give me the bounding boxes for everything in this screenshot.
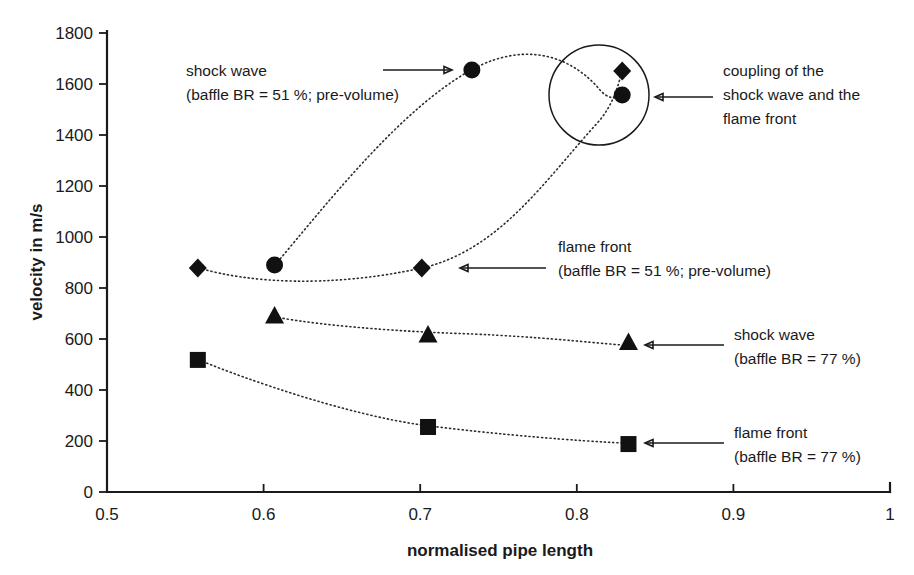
data-point-diamond [613, 61, 631, 80]
x-axis-ticks: 0.50.60.70.80.91 [95, 484, 895, 524]
x-tick-label: 0.8 [565, 505, 589, 524]
y-tick-label: 1600 [55, 75, 93, 94]
velocity-vs-pipe-length-chart: 020040060080010001200140016001800 0.50.6… [0, 0, 914, 575]
data-point-diamond [413, 259, 431, 278]
annotation-shock-wave-77-line1: shock wave [734, 326, 815, 343]
x-axis-title: normalised pipe length [407, 541, 593, 560]
annotation-shock-wave-51-line1: shock wave [186, 62, 267, 79]
x-tick-label: 0.5 [95, 505, 119, 524]
y-tick-label: 400 [65, 381, 93, 400]
data-point-square [190, 352, 206, 368]
data-point-circle [266, 257, 283, 274]
y-tick-label: 0 [84, 483, 93, 502]
y-tick-label: 1200 [55, 177, 93, 196]
annotation-flame-front-77: flame front (baffle BR = 77 %) [734, 424, 861, 465]
chart-container: 020040060080010001200140016001800 0.50.6… [0, 0, 914, 575]
annotation-flame-front-51-line1: flame front [558, 238, 632, 255]
x-tick-label: 0.9 [722, 505, 746, 524]
annotation-coupling-line2: shock wave and the [723, 86, 860, 103]
data-point-square [620, 436, 636, 452]
data-point-circle [614, 86, 631, 103]
annotation-shock-wave-77: shock wave (baffle BR = 77 %) [734, 326, 861, 367]
annotation-flame-front-77-line1: flame front [734, 424, 808, 441]
annotation-coupling: coupling of the shock wave and the flame… [723, 62, 860, 127]
annotation-coupling-line1: coupling of the [723, 62, 824, 79]
callout-arrows-group [383, 67, 724, 447]
data-point-square [420, 419, 436, 435]
coupling-highlight-circle [549, 45, 649, 145]
data-point-triangle [265, 306, 284, 324]
data-point-triangle [619, 333, 638, 351]
annotation-flame-front-77-line2: (baffle BR = 77 %) [734, 448, 861, 465]
y-axis-ticks: 020040060080010001200140016001800 [55, 24, 107, 502]
x-tick-label: 0.6 [252, 505, 276, 524]
y-tick-label: 1800 [55, 24, 93, 43]
data-point-circle [463, 61, 480, 78]
annotation-flame-front-51: flame front (baffle BR = 51 %; pre-volum… [558, 238, 771, 279]
annotation-shock-wave-51: shock wave (baffle BR = 51 %; pre-volume… [186, 62, 399, 103]
data-point-triangle [419, 325, 438, 343]
data-markers-group [189, 61, 638, 452]
x-tick-label: 0.7 [408, 505, 432, 524]
data-point-diamond [189, 259, 207, 278]
x-tick-label: 1 [885, 505, 894, 524]
annotation-shock-wave-77-line2: (baffle BR = 77 %) [734, 350, 861, 367]
y-tick-label: 200 [65, 432, 93, 451]
annotation-shock-wave-51-line2: (baffle BR = 51 %; pre-volume) [186, 86, 399, 103]
y-tick-label: 1000 [55, 228, 93, 247]
y-axis-title: velocity in m/s [27, 203, 46, 320]
y-tick-label: 1400 [55, 126, 93, 145]
annotation-coupling-line3: flame front [723, 110, 797, 127]
series-path-flame-front-77 [199, 360, 622, 443]
annotation-flame-front-51-line2: (baffle BR = 51 %; pre-volume) [558, 262, 771, 279]
y-tick-label: 600 [65, 330, 93, 349]
series-path-shock-wave-77 [275, 317, 622, 345]
y-tick-label: 800 [65, 279, 93, 298]
